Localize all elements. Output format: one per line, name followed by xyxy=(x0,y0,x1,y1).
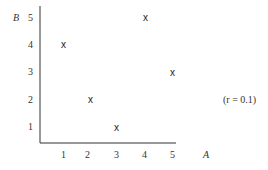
y-tick-2: 2 xyxy=(28,94,33,105)
data-point-marker: x xyxy=(170,67,175,78)
y-tick-4: 4 xyxy=(28,39,33,50)
correlation-annotation: (r = 0.1) xyxy=(223,94,256,106)
x-tick-4: 4 xyxy=(142,149,147,160)
data-point-marker: x xyxy=(143,12,148,23)
y-tick-5: 5 xyxy=(28,12,33,23)
y-axis-label: B xyxy=(13,12,19,23)
data-point-marker: x xyxy=(114,122,119,133)
x-tick-5: 5 xyxy=(170,149,175,160)
y-tick-3: 3 xyxy=(28,66,33,77)
x-axis-label: A xyxy=(202,149,210,160)
data-point-marker: x xyxy=(61,39,66,50)
x-tick-1: 1 xyxy=(61,149,66,160)
x-tick-3: 3 xyxy=(114,149,119,160)
y-tick-1: 1 xyxy=(28,121,33,132)
x-tick-2: 2 xyxy=(85,149,90,160)
data-point-marker: x xyxy=(88,94,93,105)
scatter-plot: B 5 4 3 2 1 1 2 3 4 5 A x x x x x (r = 0… xyxy=(0,0,268,170)
